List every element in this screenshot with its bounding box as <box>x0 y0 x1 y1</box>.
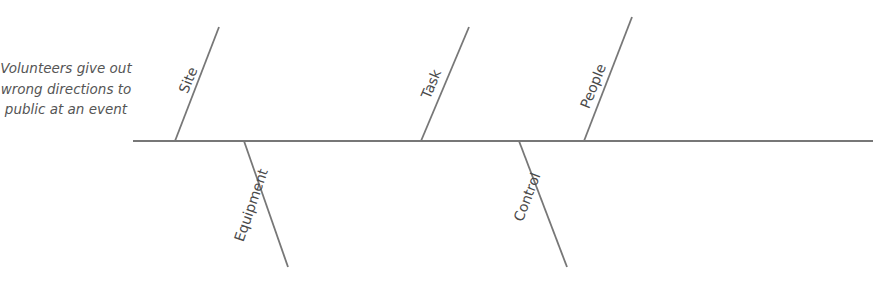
fishbone-lines <box>0 0 886 284</box>
fishbone-diagram: Volunteers give out wrong directions to … <box>0 0 886 284</box>
effect-problem-statement: Volunteers give out wrong directions to … <box>0 58 132 120</box>
